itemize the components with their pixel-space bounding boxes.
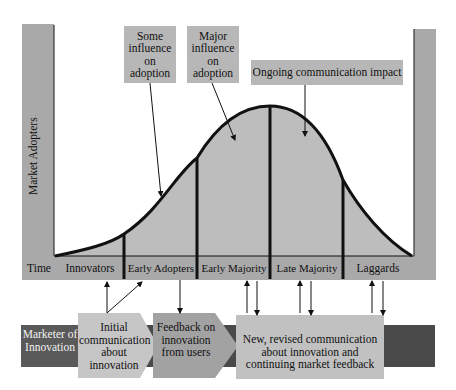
- adoption-curve-fill: [55, 106, 412, 256]
- diagram: Market Adopters Some influence on adopti…: [0, 0, 456, 390]
- callout-ongoing-text: Ongoing communication impact: [253, 66, 402, 79]
- callout-some-influence: Some influence on adoption: [124, 26, 176, 83]
- segment-laggards: Laggards: [344, 260, 412, 276]
- segment-innovators: Innovators: [58, 260, 122, 276]
- flow-revised-communication: New, revised communication about innovat…: [240, 333, 380, 371]
- callout-some-influence-text: Some influence on adoption: [124, 30, 176, 80]
- segment-early-adopters: Early Adopters: [125, 260, 197, 276]
- x-axis-label: Time: [24, 260, 54, 276]
- callout-major-influence: Major influence on adoption: [187, 26, 239, 83]
- flow-initial-communication: Initial communication about innovation: [79, 321, 149, 371]
- flow-marketer: Marketer of Innovation: [22, 328, 78, 353]
- feedback-arrows: [107, 280, 383, 315]
- flow-feedback: Feedback on innovation from users: [154, 321, 218, 359]
- segment-early-majority: Early Majority: [198, 260, 270, 276]
- y-axis-label: Market Adopters: [27, 75, 41, 195]
- callout-ongoing: Ongoing communication impact: [251, 60, 403, 85]
- segment-late-majority: Late Majority: [271, 260, 343, 276]
- callout-major-influence-text: Major influence on adoption: [187, 30, 239, 80]
